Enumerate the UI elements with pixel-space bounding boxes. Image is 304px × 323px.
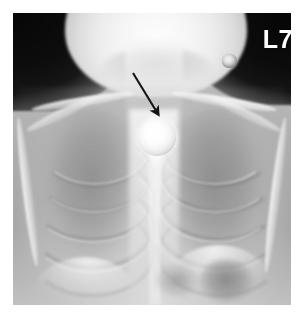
radiograph-page: L7 <box>0 0 304 323</box>
chest-radiograph-image: L7 <box>13 13 291 305</box>
film-grain <box>13 13 291 305</box>
